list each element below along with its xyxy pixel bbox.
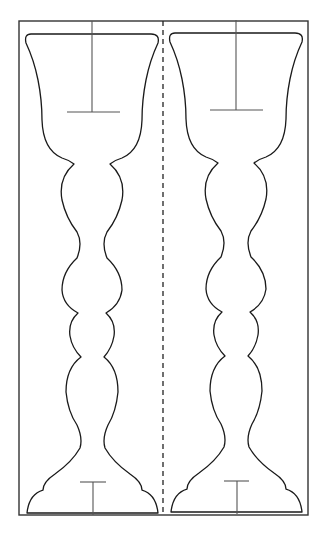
goblet-left: [26, 21, 159, 515]
goblet-right: [170, 20, 303, 514]
goblet-template-figure: [0, 0, 322, 548]
